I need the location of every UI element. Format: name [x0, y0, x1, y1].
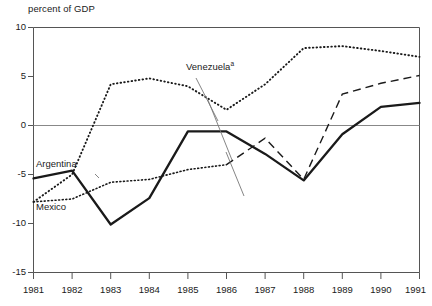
x-tick-label-1982: 1982 [52, 284, 92, 295]
series-label-mexico: Mexico [36, 201, 66, 212]
series-label-venezuela: Venezuelaa [186, 60, 234, 72]
y-tick-label-10: 10 [0, 21, 26, 32]
y-tick-label-neg5: -5 [0, 168, 26, 179]
venezuela-leader-line-tail [226, 152, 244, 196]
y-tick-label-5: 5 [0, 70, 26, 81]
y-tick-marks [28, 28, 34, 273]
series-label-venezuela-text: Venezuela [186, 61, 230, 72]
chart-container: percent of GDP [0, 0, 432, 306]
y-tick-label-neg10: -10 [0, 217, 26, 228]
x-tick-label-1988: 1988 [284, 284, 324, 295]
x-tick-label-1983: 1983 [91, 284, 131, 295]
x-tick-label-1985: 1985 [168, 284, 208, 295]
chart-plot-area [0, 0, 432, 306]
series-label-venezuela-footnote: a [230, 60, 234, 67]
x-tick-label-1991: 1991 [400, 284, 432, 295]
y-tick-label-0: 0 [0, 119, 26, 130]
argentina-leader-line [95, 174, 99, 178]
series-label-argentina: Argentina [36, 158, 77, 169]
x-tick-label-1989: 1989 [322, 284, 362, 295]
x-tick-marks [34, 273, 420, 280]
x-tick-label-1981: 1981 [14, 284, 54, 295]
x-tick-label-1987: 1987 [245, 284, 285, 295]
series-line-mexico-early [34, 165, 227, 202]
x-tick-label-1990: 1990 [361, 284, 401, 295]
x-tick-label-1984: 1984 [129, 284, 169, 295]
x-tick-label-1986: 1986 [207, 284, 247, 295]
series-line-argentina [34, 103, 420, 225]
y-tick-label-neg15: -15 [0, 266, 26, 277]
venezuela-leader-line [196, 78, 218, 121]
